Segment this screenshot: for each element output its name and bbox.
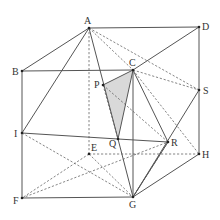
geometry-diagram: ABCDEFGHIPQRS [0,0,220,220]
edge-ad [89,27,199,28]
point-g [132,196,135,199]
edge-gh [133,154,199,197]
label-d: D [202,21,209,32]
point-q [117,138,120,141]
point-r [167,141,170,144]
edge-qr [118,139,168,142]
point-a [88,27,91,30]
label-h: H [202,149,209,160]
label-g: G [129,199,136,210]
edge-fg [22,197,133,198]
point-p [102,84,105,87]
edge-ai [22,28,89,133]
point-h [198,153,201,156]
label-a: A [84,15,92,26]
point-i [21,132,24,135]
shaded-triangle-pqc [103,70,133,139]
dashed-edge-ac [89,28,133,70]
edge-cr [133,70,168,142]
label-p: P [94,79,100,90]
label-r: R [171,137,178,148]
point-d [198,26,201,29]
point-s [198,89,201,92]
dashed-edge-cs [133,70,199,90]
label-f: F [13,195,19,206]
point-e [88,153,91,156]
edge-qg [118,139,133,197]
edge-dc [133,27,199,70]
edge-iq [22,133,118,139]
label-e: E [91,142,97,153]
point-f [21,197,24,200]
edge-bc [22,70,133,71]
label-c: C [129,57,136,68]
label-q: Q [109,138,117,149]
edge-gs [133,90,199,197]
point-c [132,69,135,72]
label-i: I [14,128,17,139]
edge-ab [22,28,89,71]
cube-cross-section-figure: ABCDEFGHIPQRS [0,0,220,220]
point-b [21,70,24,73]
label-b: B [12,66,19,77]
label-s: S [203,85,209,96]
shaded-face [103,70,133,139]
